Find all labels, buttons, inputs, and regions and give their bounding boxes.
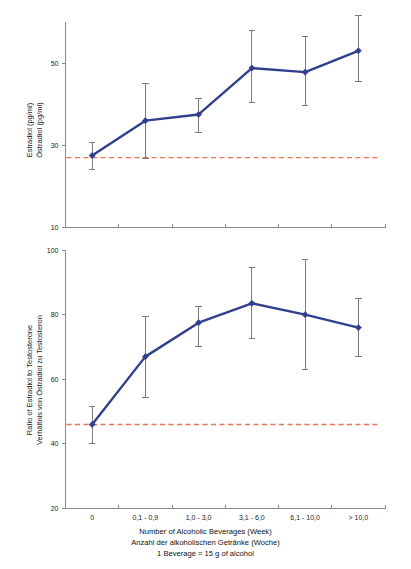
caption-line-3: 1 Beverage = 15 g of alcohol bbox=[0, 548, 411, 559]
y-tick-label: 30 bbox=[51, 142, 59, 149]
y-tick-label: 50 bbox=[51, 60, 59, 67]
data-point-marker bbox=[302, 69, 308, 75]
data-point-marker bbox=[302, 312, 308, 318]
y-tick-label: 20 bbox=[51, 505, 59, 512]
x-category-labels: 00,1 - 0,91,0 - 3,03,1 - 6,06,1 - 10,0> … bbox=[90, 514, 368, 521]
y-axis-title-ratio: Ratio of Estradiol to Testosterone Verhä… bbox=[25, 315, 44, 445]
y-axis-title-estradiol-line2: Östradiol (pg/ml) bbox=[35, 102, 44, 158]
y-tick-label: 100 bbox=[47, 247, 59, 254]
data-point-marker bbox=[355, 48, 361, 54]
data-point-marker bbox=[355, 324, 361, 330]
x-category-label: 0 bbox=[90, 514, 94, 521]
x-category-label: 1,0 - 3,0 bbox=[186, 514, 212, 521]
dual-line-chart: 103050 Estradiol (pg/ml) Östradiol (pg/m… bbox=[0, 0, 411, 569]
x-category-label: 6,1 - 10,0 bbox=[290, 514, 320, 521]
figure-container: 103050 Estradiol (pg/ml) Östradiol (pg/m… bbox=[0, 0, 411, 569]
data-markers-estradiol bbox=[89, 48, 361, 159]
caption-line-1: Number of Alcoholic Beverages (Week) bbox=[0, 526, 411, 537]
chart-ratio: 20406080100 00,1 - 0,91,0 - 3,03,1 - 6,0… bbox=[25, 247, 385, 521]
x-category-label: > 10,0 bbox=[349, 514, 369, 521]
y-ticks-ratio: 20406080100 bbox=[47, 247, 66, 512]
figure-caption: Number of Alcoholic Beverages (Week) Anz… bbox=[0, 526, 411, 559]
y-tick-label: 80 bbox=[51, 311, 59, 318]
error-bars-ratio bbox=[89, 260, 362, 444]
caption-line-2: Anzahl der alkoholischen Getränke (Woche… bbox=[0, 537, 411, 548]
y-tick-label: 40 bbox=[51, 440, 59, 447]
x-ticks-ratio bbox=[66, 505, 386, 509]
x-ticks-estradiol bbox=[66, 224, 386, 228]
y-tick-label: 60 bbox=[51, 376, 59, 383]
chart-estradiol: 103050 Estradiol (pg/ml) Östradiol (pg/m… bbox=[25, 16, 385, 231]
y-axis-title-ratio-line2: Verhältnis von Östradiol zu Testosteron bbox=[35, 315, 44, 445]
y-axis-title-ratio-line1: Ratio of Estradiol to Testosterone bbox=[25, 325, 34, 435]
series-line-estradiol bbox=[92, 51, 358, 156]
data-point-marker bbox=[249, 300, 255, 306]
y-ticks-estradiol: 103050 bbox=[51, 60, 66, 231]
y-axis-title-estradiol-line1: Estradiol (pg/ml) bbox=[25, 102, 34, 157]
series-line-ratio bbox=[92, 303, 358, 424]
x-category-label: 0,1 - 0,9 bbox=[133, 514, 159, 521]
y-axis-title-estradiol: Estradiol (pg/ml) Östradiol (pg/ml) bbox=[25, 102, 44, 158]
y-tick-label: 10 bbox=[51, 224, 59, 231]
x-category-label: 3,1 - 6,0 bbox=[239, 514, 265, 521]
